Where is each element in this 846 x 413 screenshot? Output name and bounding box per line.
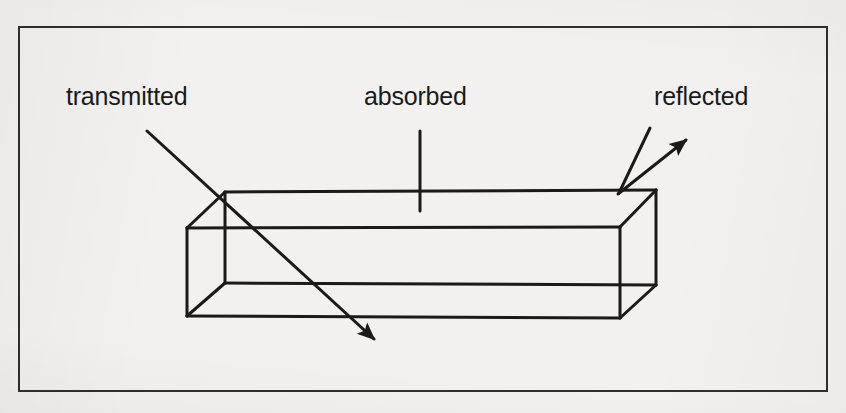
- reflected-leader-line: [619, 128, 650, 193]
- edge-top-back: [225, 190, 656, 192]
- label-absorbed: absorbed: [364, 84, 467, 109]
- edge-bottom-front: [187, 316, 620, 318]
- edge-top-right: [620, 190, 656, 227]
- diagram-canvas: [0, 0, 846, 413]
- edge-bottom-left: [187, 283, 225, 316]
- label-transmitted: transmitted: [66, 84, 187, 109]
- reflected-ray-arrow: [618, 140, 686, 194]
- label-reflected: reflected: [654, 84, 748, 109]
- figure-container: transmitted absorbed reflected: [0, 0, 846, 413]
- edge-bottom-right: [620, 285, 656, 318]
- transmitted-ray-arrow: [147, 131, 374, 339]
- edge-bottom-back: [225, 283, 656, 285]
